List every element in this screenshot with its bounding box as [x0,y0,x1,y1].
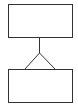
entity-top-box[interactable] [9,5,73,38]
entity-bottom-box[interactable] [9,70,73,103]
relationship-connector[interactable] [25,38,55,70]
crows-foot-right-icon [40,53,56,69]
crows-foot-left-icon [25,53,40,69]
diagram-canvas [0,0,78,111]
